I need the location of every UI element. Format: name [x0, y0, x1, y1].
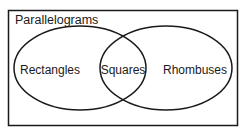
venn-diagram: Parallelograms Rectangles Squares Rhombu… — [0, 0, 244, 130]
set-label-rhombuses: Rhombuses — [163, 63, 227, 77]
universe-label: Parallelograms — [15, 13, 98, 27]
set-label-rectangles: Rectangles — [20, 63, 80, 77]
intersection-label-squares: Squares — [101, 63, 146, 77]
